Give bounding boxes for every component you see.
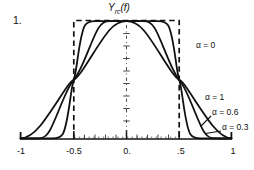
x-tick-label-zero: 0. — [115, 146, 139, 156]
x-tick-label-pos05: .5 — [171, 146, 191, 156]
plot-title: Yrc(f) — [108, 2, 130, 15]
plot-title-argument: (f) — [121, 2, 130, 13]
x-tick-label-neg1: -1 — [11, 146, 31, 156]
figure-container: 1. Yrc(f) α = 0 α = 1 α = 0.6 α = 0.3 -1… — [0, 0, 254, 170]
x-tick-label-pos1: 1 — [223, 146, 243, 156]
annotation-alpha-0: α = 0 — [196, 40, 215, 50]
annotation-alpha-06: α = 0.6 — [212, 107, 238, 117]
annotation-alpha-03: α = 0.3 — [222, 122, 248, 132]
plot-title-main: Y — [108, 2, 115, 13]
x-tick-label-neg05: -0.5 — [58, 146, 90, 156]
plot-canvas — [0, 0, 254, 170]
center-vertical-axis — [123, 21, 129, 139]
annotation-alpha-1: α = 1 — [205, 92, 224, 102]
figure-number-label: 1. — [13, 14, 22, 26]
